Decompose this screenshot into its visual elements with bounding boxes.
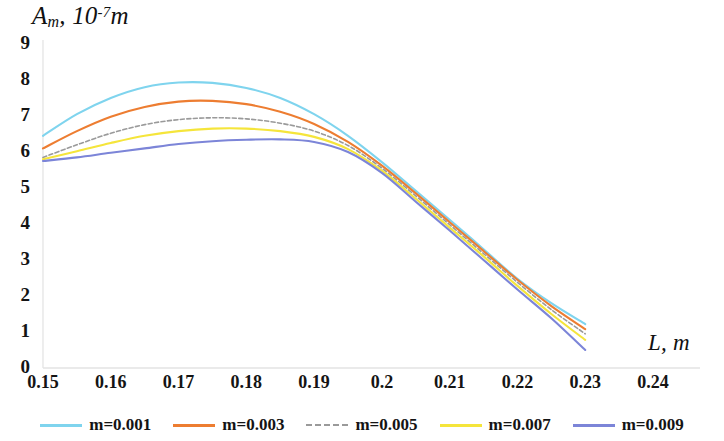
legend-swatch-icon	[173, 424, 215, 427]
legend-swatch-icon	[440, 424, 482, 427]
series-line-m=0.009	[43, 139, 585, 350]
legend-label: m=0.001	[89, 415, 151, 435]
series-line-m=0.007	[43, 128, 585, 340]
axis-lines	[43, 40, 700, 368]
series-line-m=0.003	[43, 101, 585, 329]
legend-label: m=0.003	[222, 415, 284, 435]
data-series-group	[43, 82, 585, 350]
legend-label: m=0.007	[489, 415, 551, 435]
chart-container: Am, 10-7m L, m 0123456789 0.150.160.170.…	[0, 0, 724, 441]
plot-area	[0, 0, 724, 441]
legend-swatch-icon	[573, 424, 615, 427]
legend-label: m=0.009	[622, 415, 684, 435]
legend-item-m=0.005[interactable]: m=0.005	[306, 415, 417, 435]
legend-item-m=0.003[interactable]: m=0.003	[173, 415, 284, 435]
legend-item-m=0.007[interactable]: m=0.007	[440, 415, 551, 435]
chart-legend: m=0.001m=0.003m=0.005m=0.007m=0.009	[0, 412, 724, 438]
legend-item-m=0.001[interactable]: m=0.001	[40, 415, 151, 435]
legend-label: m=0.005	[355, 415, 417, 435]
series-line-m=0.001	[43, 82, 585, 324]
legend-swatch-icon	[306, 424, 348, 426]
legend-item-m=0.009[interactable]: m=0.009	[573, 415, 684, 435]
legend-swatch-icon	[40, 424, 82, 427]
